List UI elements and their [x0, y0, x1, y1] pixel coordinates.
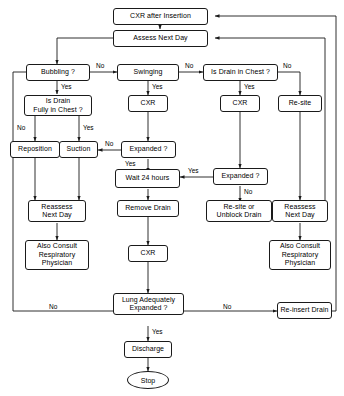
edge-label-swinging-no: No [184, 62, 194, 69]
node-lung-adequately-expanded[interactable]: Lung Adequately Expanded ? [113, 293, 184, 315]
edge-label-fully-in-chest-no: No [16, 124, 26, 131]
node-bubbling[interactable]: Bubbling ? [26, 64, 90, 81]
node-is-drain-fully-in-chest[interactable]: Is Drain Fully in Chest ? [24, 95, 92, 116]
edge-label-lung-expanded-yes: Yes [151, 328, 164, 335]
node-is-drain-in-chest[interactable]: Is Drain in Chest ? [203, 64, 278, 81]
edge-label-expanded-right-no: No [243, 188, 253, 195]
node-stop[interactable]: Stop [127, 371, 169, 389]
node-cxr-bottom[interactable]: CXR [128, 245, 168, 262]
node-remove-drain[interactable]: Remove Drain [117, 200, 179, 217]
edge-label-lung-expanded-no-right: No [222, 303, 232, 310]
node-wait-24-hours[interactable]: Wait 24 hours [115, 169, 180, 188]
edge-label-drain-in-chest-no: No [282, 62, 292, 69]
node-also-consult-right[interactable]: Also Consult Respiratory Physician [269, 240, 331, 270]
node-re-site-or-unblock-drain[interactable]: Re-site or Unblock Drain [206, 200, 272, 222]
node-reposition[interactable]: Reposition [10, 141, 60, 158]
node-also-consult-left[interactable]: Also Consult Respiratory Physician [25, 240, 89, 270]
edge-label-bubbling-yes: Yes [60, 83, 73, 90]
edge-label-expanded-right-yes: Yes [187, 167, 200, 174]
edge-label-swinging-yes: Yes [151, 83, 164, 90]
edge-label-fully-in-chest-yes: Yes [82, 124, 95, 131]
edge-label-drain-in-chest-yes: Yes [243, 83, 256, 90]
node-cxr-after-insertion[interactable]: CXR after Insertion [113, 8, 208, 25]
node-re-insert-drain[interactable]: Re-insert Drain [277, 302, 332, 319]
edge-label-lung-expanded-no-left: No [48, 303, 58, 310]
node-swinging[interactable]: Swinging [117, 64, 179, 81]
node-reassess-next-day-right[interactable]: Reassess Next Day [272, 200, 328, 222]
edge-label-expanded-mid-yes: Yes [124, 160, 137, 167]
node-cxr-right[interactable]: CXR [220, 95, 260, 112]
node-expanded-right[interactable]: Expanded ? [213, 168, 268, 185]
node-expanded-mid[interactable]: Expanded ? [121, 141, 176, 158]
node-discharge[interactable]: Discharge [124, 341, 172, 358]
flowchart-diagram: CXR after Insertion Assess Next Day Bubb… [0, 0, 344, 396]
edge-label-expanded-mid-no: No [104, 140, 114, 147]
node-reassess-next-day-left[interactable]: Reassess Next Day [28, 200, 86, 222]
node-assess-next-day[interactable]: Assess Next Day [113, 30, 208, 47]
node-suction[interactable]: Suction [59, 141, 98, 158]
edge-label-bubbling-no: No [95, 62, 105, 69]
node-re-site[interactable]: Re-site [278, 95, 322, 112]
node-cxr-mid[interactable]: CXR [128, 95, 168, 112]
flowchart-connectors [0, 0, 344, 396]
